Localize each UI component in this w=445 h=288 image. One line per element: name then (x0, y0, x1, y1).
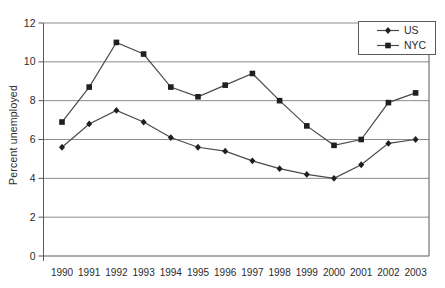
x-tick-label: 1995 (187, 267, 210, 278)
data-point-us (277, 165, 283, 172)
y-tick-label: 10 (24, 55, 36, 67)
x-tick-label: 1994 (160, 267, 183, 278)
legend-label-us: US (404, 25, 419, 36)
data-point-us (113, 107, 119, 114)
data-point-nyc (114, 40, 120, 46)
data-point-nyc (222, 82, 228, 88)
data-point-nyc (386, 100, 392, 106)
x-tick-label: 1992 (105, 267, 128, 278)
x-tick-label: 2000 (323, 267, 346, 278)
x-tick-label: 1996 (214, 267, 237, 278)
data-point-us (331, 175, 337, 182)
diamond-marker-icon (376, 26, 400, 35)
x-tick-label: 2001 (350, 267, 373, 278)
unemployment-line-chart: 0246810121990199119921993199419951996199… (0, 0, 445, 288)
x-tick-label: 2002 (377, 267, 400, 278)
data-point-nyc (358, 137, 364, 143)
data-point-nyc (250, 71, 256, 77)
data-point-us (195, 144, 201, 151)
series-line-nyc (62, 42, 416, 145)
y-tick-label: 4 (30, 172, 36, 184)
data-point-nyc (277, 98, 283, 104)
x-tick-label: 1997 (241, 267, 264, 278)
y-tick-label: 2 (30, 211, 36, 223)
data-point-nyc (168, 84, 174, 90)
x-tick-label: 1998 (268, 267, 291, 278)
x-tick-label: 1999 (296, 267, 319, 278)
data-point-nyc (195, 94, 201, 100)
legend-label-nyc: NYC (404, 40, 426, 51)
data-point-us (304, 171, 310, 178)
data-point-us (141, 119, 147, 126)
data-point-nyc (304, 123, 310, 129)
y-tick-label: 12 (24, 17, 36, 29)
y-tick-label: 0 (30, 250, 36, 262)
data-point-nyc (59, 119, 65, 125)
series-line-us (62, 110, 416, 178)
legend-item-nyc: NYC (376, 39, 435, 53)
x-tick-label: 1990 (51, 267, 74, 278)
data-point-nyc (141, 51, 147, 57)
y-axis-title: Percent unemployed (7, 85, 19, 185)
y-tick-label: 8 (30, 94, 36, 106)
x-tick-label: 1991 (78, 267, 101, 278)
legend-item-us: US (376, 24, 435, 38)
data-point-us (222, 148, 228, 155)
x-tick-label: 1993 (132, 267, 155, 278)
legend: US NYC (358, 21, 436, 55)
y-tick-label: 6 (30, 133, 36, 145)
x-tick-label: 2003 (404, 267, 427, 278)
data-point-nyc (86, 84, 92, 90)
data-point-us (413, 136, 419, 143)
square-marker-icon (376, 41, 400, 50)
data-point-nyc (413, 90, 419, 96)
data-point-nyc (331, 143, 337, 149)
data-point-us (249, 157, 255, 164)
